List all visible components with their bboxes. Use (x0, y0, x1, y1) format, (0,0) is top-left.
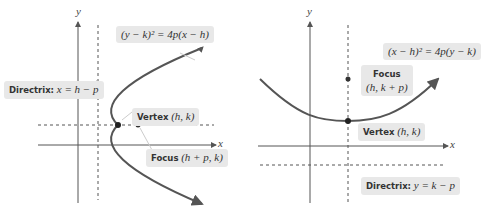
right-y-axis-label: y (307, 5, 312, 17)
right-focus-point (346, 77, 351, 82)
left-y-axis-label: y (76, 5, 81, 17)
left-vertex-label: Vertex (h, k) (132, 108, 199, 126)
right-focus-label: Focus(h, k + p) (361, 65, 413, 96)
right-vertex-label: Vertex (h, k) (358, 123, 425, 141)
right-vertex-point (345, 118, 351, 124)
left-vertex-point (115, 122, 121, 128)
right-directrix-label: Directrix: y = k − p (361, 177, 460, 195)
left-focus-label: Focus (h + p, k) (146, 149, 228, 167)
right-equation-label: (x − h)² = 4p(y − k) (383, 43, 481, 60)
left-parabola (111, 48, 202, 204)
left-directrix-label: Directrix: x = h − p (4, 81, 104, 99)
left-equation-label: (y − k)² = 4p(x − h) (116, 26, 214, 43)
left-x-axis-label: x (218, 137, 223, 149)
right-x-axis-label: x (450, 138, 455, 150)
